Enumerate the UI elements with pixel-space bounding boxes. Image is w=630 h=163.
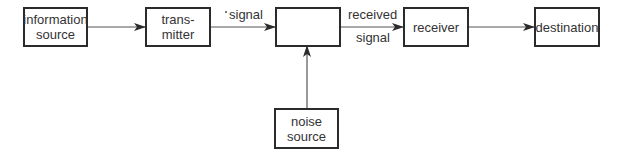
receiver-box: receiver (403, 7, 469, 47)
destination-label: destination (536, 20, 599, 35)
received-signal-label: signal (356, 30, 390, 45)
noise-source-box: noise source (274, 108, 339, 149)
noise-source-line-2: source (287, 129, 326, 144)
information-source-line-1: information (23, 12, 87, 27)
stray-mark (225, 11, 227, 13)
information-source-box: information source (23, 7, 88, 47)
transmitter-line-1: trans- (161, 12, 194, 27)
transmitter-line-2: mitter (161, 27, 194, 42)
received-label: received (348, 7, 397, 22)
destination-box: destination (534, 7, 600, 47)
receiver-label: receiver (413, 20, 459, 35)
information-source-line-2: source (23, 27, 87, 42)
noise-source-line-1: noise (287, 114, 326, 129)
transmitter-box: trans- mitter (145, 7, 211, 47)
signal-label: signal (229, 7, 263, 22)
channel-box (275, 7, 341, 47)
